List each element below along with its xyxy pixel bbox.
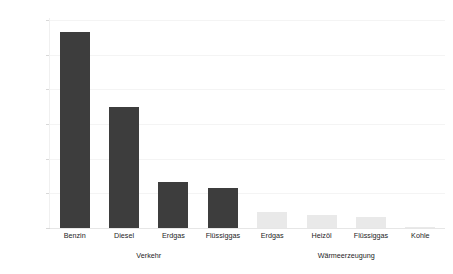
x-axis-tick-label: Diesel [99,232,148,239]
x-axis-tick-label: Heizöl [297,232,346,239]
bar-slot [248,20,297,228]
bar-slot [149,20,198,228]
bar[interactable] [208,188,238,228]
bar[interactable] [356,217,386,228]
bar-slot [99,20,148,228]
bar-slot [50,20,99,228]
bar[interactable] [109,107,139,228]
bar-slot [297,20,346,228]
x-axis-group-labels: VerkehrWärmeerzeugung [50,252,445,266]
bar[interactable] [60,32,90,228]
x-axis-tick-label: Flüssiggas [198,232,247,239]
bar[interactable] [158,182,188,228]
x-axis-tick-labels: BenzinDieselErdgasFlüssiggasErdgasHeizöl… [50,232,445,246]
x-axis-group-label: Wärmeerzeugung [248,252,446,259]
bar[interactable] [257,212,287,228]
x-axis-tick-label: Flüssiggas [346,232,395,239]
x-axis-group-label: Verkehr [50,252,248,259]
bar-slot [198,20,247,228]
bar[interactable] [307,215,337,228]
bar-slot [396,20,445,228]
y-axis-tick-mark [46,228,50,229]
bar[interactable] [405,227,435,228]
x-axis-tick-label: Erdgas [248,232,297,239]
x-axis-tick-label: Benzin [50,232,99,239]
x-axis-tick-label: Erdgas [149,232,198,239]
bar-series [50,20,445,228]
gridline [50,228,445,229]
bar-slot [346,20,395,228]
plot-area: 050100150200250300 [50,20,445,228]
x-axis-tick-label: Kohle [396,232,445,239]
bar-chart: Euro / t CO2 050100150200250300 BenzinDi… [0,0,453,274]
